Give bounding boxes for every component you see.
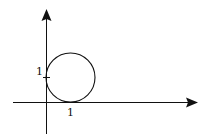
x-tick-label: 1 [67, 106, 74, 119]
x-axis [13, 98, 198, 108]
y-tick-label: 1 [36, 65, 43, 78]
coordinate-diagram: 1 1 [0, 0, 204, 138]
circle [46, 53, 95, 102]
